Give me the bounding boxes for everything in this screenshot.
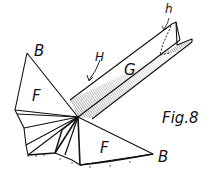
label-f-bottom: F bbox=[100, 141, 109, 156]
figure-caption: Fig.8 bbox=[162, 111, 199, 126]
label-g: G bbox=[124, 63, 136, 78]
origami-figure: B F h H G F B Fig.8 bbox=[0, 0, 215, 173]
label-f-left: F bbox=[32, 89, 41, 104]
label-b-top: B bbox=[34, 44, 44, 59]
label-h-lower: h bbox=[165, 3, 173, 15]
label-h-upper: H bbox=[95, 51, 104, 63]
label-b-bottom: B bbox=[158, 150, 168, 165]
